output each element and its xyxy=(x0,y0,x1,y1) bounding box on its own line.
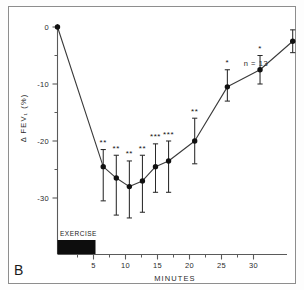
exercise-label: EXERCISE xyxy=(60,230,97,237)
significance-marker: * xyxy=(258,44,262,53)
significance-marker: *** xyxy=(163,130,174,139)
data-point xyxy=(127,184,132,189)
x-ticklabel-15: 15 xyxy=(153,261,162,270)
x-ticklabel-5: 5 xyxy=(91,261,95,270)
exercise-bar-group: EXERCISE xyxy=(58,230,98,254)
y-axis: 0 -10 -20 -30 Δ FEV₁ (%) xyxy=(19,23,58,254)
significance-marker: *** xyxy=(150,132,161,141)
figure-panel: 0 -10 -20 -30 Δ FEV₁ (%) 5 xyxy=(0,0,304,290)
significance-marker: * xyxy=(226,58,230,67)
significance-marker: ** xyxy=(139,144,146,153)
x-axis: 5 10 15 20 25 30 MINUTES xyxy=(58,255,288,284)
y-axis-title-group: Δ FEV₁ (%) xyxy=(19,94,28,143)
y-ticklabel-minus10: -10 xyxy=(37,80,49,89)
data-point xyxy=(166,158,171,163)
data-point xyxy=(55,24,60,29)
data-point xyxy=(153,164,158,169)
significance-marker: ** xyxy=(126,149,133,158)
panel-label: B xyxy=(14,262,23,278)
y-ticklabel-0: 0 xyxy=(45,23,49,32)
y-ticklabel-minus20: -20 xyxy=(37,137,49,146)
x-ticklabel-10: 10 xyxy=(121,261,130,270)
data-point xyxy=(101,164,106,169)
x-ticklabel-20: 20 xyxy=(185,261,194,270)
chart-canvas: 0 -10 -20 -30 Δ FEV₁ (%) 5 xyxy=(0,0,304,290)
significance-marker: ** xyxy=(191,107,198,116)
y-ticklabel-minus30: -30 xyxy=(37,194,49,203)
data-point xyxy=(290,39,295,44)
x-ticklabel-30: 30 xyxy=(249,261,258,270)
significance-marker: ** xyxy=(113,144,120,153)
data-point xyxy=(225,84,230,89)
significance-marker: ** xyxy=(100,138,107,147)
data-point xyxy=(140,178,145,183)
data-point xyxy=(114,175,119,180)
sample-size-annotation: n = 13 xyxy=(244,59,269,68)
x-axis-title: MINUTES xyxy=(154,274,195,283)
data-series-layer: ****************** xyxy=(55,24,296,218)
data-point xyxy=(192,138,197,143)
exercise-bar xyxy=(58,240,96,254)
x-ticklabel-25: 25 xyxy=(217,261,226,270)
y-axis-title: Δ FEV₁ (%) xyxy=(19,94,28,143)
